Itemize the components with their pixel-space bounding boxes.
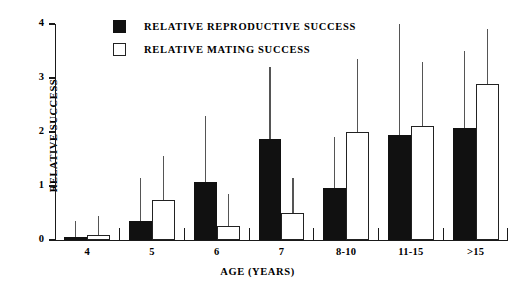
bar-mating-success (476, 84, 499, 240)
y-tick-label: 1 (24, 180, 44, 191)
bar-mating-success (217, 226, 240, 240)
bar-reproductive-success (453, 128, 476, 240)
error-bar (140, 178, 141, 221)
bar-mating-success (411, 126, 434, 240)
bar-reproductive-success (388, 135, 411, 240)
legend-item-reproductive: RELATIVE REPRODUCTIVE SUCCESS (113, 16, 356, 36)
bar-chart-figure: RELATIVE SUCCESS 01234 45678-1011-15>15 … (0, 0, 515, 294)
x-tick-label: 5 (120, 246, 185, 257)
error-bar (334, 137, 335, 187)
x-tick-label: 11-15 (379, 246, 444, 257)
bar-group (443, 24, 508, 240)
legend-item-mating: RELATIVE MATING SUCCESS (113, 39, 356, 59)
error-bar (205, 116, 206, 182)
error-bar (292, 178, 293, 213)
x-tick-label: 6 (184, 246, 249, 257)
error-bar (422, 62, 423, 126)
error-bar (75, 221, 76, 237)
y-tick-label: 4 (24, 18, 44, 29)
bar-group (379, 24, 444, 240)
error-bar (269, 67, 270, 139)
error-bar (228, 194, 229, 226)
x-tick-label: >15 (443, 246, 508, 257)
error-bar (399, 24, 400, 135)
bar-mating-success (281, 213, 304, 240)
x-axis-title: AGE (YEARS) (0, 266, 515, 277)
error-bar (163, 156, 164, 199)
y-tick-label: 0 (24, 234, 44, 245)
y-tick-label: 3 (24, 72, 44, 83)
error-bar (357, 59, 358, 132)
legend-swatch-filled-square-icon (113, 20, 126, 33)
bar-reproductive-success (194, 182, 217, 240)
legend-swatch-open-square-icon (113, 43, 126, 56)
x-tick-label: 8-10 (314, 246, 379, 257)
error-bar (98, 216, 99, 235)
legend-label-reproductive: RELATIVE REPRODUCTIVE SUCCESS (144, 21, 356, 32)
error-bar (464, 51, 465, 128)
bar-reproductive-success (129, 221, 152, 240)
x-tick-label: 4 (55, 246, 120, 257)
bar-mating-success (346, 132, 369, 240)
bar-group (55, 24, 120, 240)
error-bar (487, 29, 488, 84)
bar-mating-success (87, 235, 110, 240)
bar-mating-success (152, 200, 175, 241)
y-tick-label: 2 (24, 126, 44, 137)
bar-reproductive-success (259, 139, 282, 240)
bar-reproductive-success (323, 188, 346, 240)
legend-label-mating: RELATIVE MATING SUCCESS (144, 44, 310, 55)
chart-legend: RELATIVE REPRODUCTIVE SUCCESS RELATIVE M… (113, 16, 356, 62)
x-tick-label: 7 (249, 246, 314, 257)
bar-reproductive-success (64, 237, 87, 240)
x-axis-line (55, 240, 508, 241)
